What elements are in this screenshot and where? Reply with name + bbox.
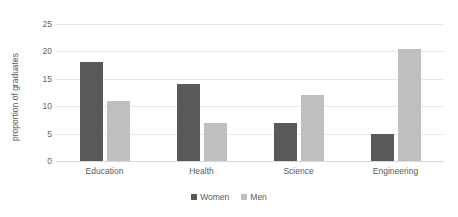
x-tick-label: Education: [56, 166, 153, 176]
legend-item-women: Women: [191, 192, 229, 202]
x-tick-label: Science: [250, 166, 347, 176]
bar-women-health: [177, 84, 200, 161]
bar-women-education: [80, 62, 103, 161]
bar-men-education: [107, 101, 130, 161]
y-tick-label: 25: [10, 19, 52, 29]
x-axis-labels: EducationHealthScienceEngineering: [56, 166, 444, 176]
x-tick-label: Engineering: [347, 166, 444, 176]
y-tick-label: 20: [10, 46, 52, 56]
y-axis-ticks: 0510152025: [8, 24, 52, 161]
bar-group: [347, 24, 444, 161]
bar-women-science: [274, 123, 297, 161]
bar-group: [250, 24, 347, 161]
legend-label: Men: [250, 192, 267, 202]
y-tick-label: 10: [10, 101, 52, 111]
bar-women-engineering: [371, 134, 394, 161]
y-tick-label: 5: [10, 129, 52, 139]
legend-label: Women: [200, 192, 229, 202]
bar-group: [153, 24, 250, 161]
x-tick-label: Health: [153, 166, 250, 176]
legend-item-men: Men: [241, 192, 267, 202]
y-tick-label: 0: [10, 156, 52, 166]
legend-swatch-icon: [241, 194, 247, 200]
gridline: [56, 161, 444, 162]
bar-men-engineering: [398, 49, 421, 161]
bar-chart: proportion of graduates 0510152025 Educa…: [0, 0, 458, 217]
bar-men-health: [204, 123, 227, 161]
chart-legend: WomenMen: [0, 192, 458, 202]
legend-swatch-icon: [191, 194, 197, 200]
bar-group: [56, 24, 153, 161]
bar-men-science: [301, 95, 324, 161]
bar-groups: [56, 24, 444, 161]
y-tick-label: 15: [10, 74, 52, 84]
